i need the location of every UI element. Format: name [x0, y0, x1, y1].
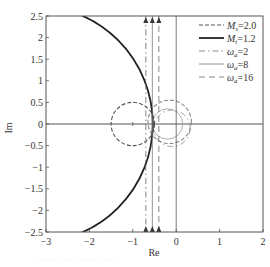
- x-tick-label: −3: [41, 236, 52, 247]
- arrow-marker-top-icon: [143, 17, 148, 23]
- legend-label: ωa=2: [227, 46, 248, 59]
- arrow-marker-bottom-icon: [150, 226, 155, 232]
- arrow-marker-bottom-icon: [156, 226, 161, 232]
- arrow-marker-top-icon: [156, 17, 161, 23]
- x-tick-label: −2: [84, 236, 95, 247]
- y-tick-label: −1.5: [25, 183, 43, 194]
- x-axis-title: Re: [148, 247, 160, 258]
- y-tick-label: −1: [32, 162, 43, 173]
- legend-label: ωa=8: [227, 59, 248, 72]
- legend-label: ωa=16: [227, 72, 253, 85]
- x-tick-label: 2: [261, 236, 266, 247]
- y-tick-label: −2.5: [25, 227, 43, 238]
- y-tick-label: 1: [38, 75, 43, 86]
- legend-label: Mt=1.2: [226, 33, 255, 46]
- y-tick-label: 0: [38, 119, 43, 130]
- arrow-marker-top-icon: [150, 17, 155, 23]
- y-tick-label: 2: [38, 32, 43, 43]
- x-tick-label: 0: [174, 236, 179, 247]
- y-tick-label: 0.5: [31, 97, 44, 108]
- legend: Ms=2.0Mt=1.2ωa=2ωa=8ωa=16: [199, 20, 256, 85]
- y-tick-label: −0.5: [25, 140, 43, 151]
- figure-caption: · · · · · · · · · · · · · · · · · ·: [30, 256, 116, 265]
- y-tick-label: 1.5: [31, 54, 44, 65]
- x-tick-label: −1: [127, 236, 138, 247]
- arrow-marker-bottom-icon: [143, 226, 148, 232]
- legend-label: Ms=2.0: [226, 20, 256, 33]
- y-tick-label: 2.5: [31, 11, 44, 22]
- x-tick-label: 1: [217, 236, 222, 247]
- nyquist-chart: −3−2−1012−2.5−2−1.5−1−0.500.511.522.5 Re…: [0, 0, 270, 267]
- y-tick-label: −2: [32, 205, 43, 216]
- y-axis-title: Im: [3, 122, 14, 133]
